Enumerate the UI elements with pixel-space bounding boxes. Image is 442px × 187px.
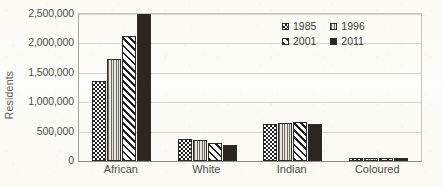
- bar-african-1996: [107, 59, 121, 161]
- bar-group-african: [79, 14, 165, 161]
- x-axis-label-white: White: [192, 163, 220, 175]
- y-axis-tick-label: 0: [68, 154, 74, 166]
- y-axis-tick-label: 1,000,000: [28, 95, 74, 107]
- bar-white-1996: [193, 140, 207, 161]
- legend-swatch-1996: [330, 23, 337, 30]
- x-axis-label-indian: Indian: [277, 163, 307, 175]
- bar-african-2001: [122, 36, 136, 161]
- legend-swatch-2011: [330, 38, 337, 45]
- x-axis-category-labels: AfricanWhiteIndianColoured: [78, 163, 422, 185]
- bar-african-2011: [137, 14, 151, 161]
- bar-coloured-2001: [379, 158, 393, 161]
- bar-group-white: [165, 14, 251, 161]
- plot-area: [78, 13, 422, 162]
- x-axis-label-coloured: Coloured: [355, 163, 400, 175]
- y-axis-tick-labels: 0500,0001,000,0001,500,0002,000,0002,500…: [14, 0, 76, 187]
- bar-white-2011: [223, 145, 237, 161]
- y-axis-tick-label: 1,500,000: [28, 66, 74, 78]
- bar-coloured-1996: [364, 158, 378, 161]
- legend-item-2011[interactable]: 2011: [330, 35, 364, 47]
- y-axis-tick-label: 500,000: [37, 125, 74, 137]
- legend-swatch-1985: [282, 23, 289, 30]
- legend-label-2011: 2011: [341, 35, 364, 47]
- bar-indian-2011: [308, 124, 322, 161]
- legend-label-1985: 1985: [293, 20, 316, 32]
- bar-indian-2001: [293, 122, 307, 161]
- legend-item-1996[interactable]: 1996: [330, 20, 364, 32]
- y-axis-tick-label: 2,500,000: [28, 7, 74, 19]
- chart-legend: 1985199620012011: [282, 20, 365, 47]
- bar-coloured-2011: [394, 158, 408, 161]
- legend-label-2001: 2001: [293, 35, 316, 47]
- bar-indian-1985: [263, 124, 277, 161]
- bar-chart: Residents 0500,0001,000,0001,500,0002,00…: [0, 0, 442, 187]
- bar-indian-1996: [278, 123, 292, 162]
- legend-item-1985[interactable]: 1985: [282, 20, 316, 32]
- legend-label-1996: 1996: [341, 20, 364, 32]
- y-axis-tick-label: 2,000,000: [28, 36, 74, 48]
- legend-swatch-2001: [282, 38, 289, 45]
- bar-white-1985: [178, 139, 192, 161]
- bar-african-1985: [92, 81, 106, 161]
- bar-white-2001: [208, 143, 222, 161]
- x-axis-label-african: African: [104, 163, 138, 175]
- legend-item-2001[interactable]: 2001: [282, 35, 316, 47]
- bar-coloured-1985: [349, 158, 363, 161]
